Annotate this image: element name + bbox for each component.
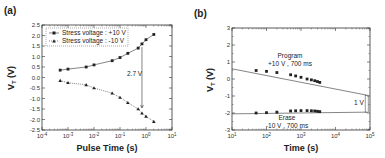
svg-text:10-2: 10-2 <box>89 132 100 140</box>
panel-label-a: (a) <box>4 5 16 16</box>
svg-text:101: 101 <box>227 132 237 140</box>
svg-text:102: 102 <box>262 132 272 140</box>
annotation-2-7v: 2.7 V <box>127 70 143 77</box>
annotation-program-conditions: +10 V , 700 ms <box>268 60 313 67</box>
svg-text:103: 103 <box>296 132 306 140</box>
svg-text:101: 101 <box>167 132 177 140</box>
svg-text:105: 105 <box>365 132 375 140</box>
y-axis-b: 3210-1-2-3 <box>225 25 370 133</box>
svg-text:104: 104 <box>331 132 341 140</box>
series-b <box>232 69 368 115</box>
figure: (a) 2.52.01.51.00.50.0-0.5-1.0-1.5-2.0-2… <box>0 0 385 158</box>
annotation-program: Program <box>278 52 303 60</box>
svg-text:1.5: 1.5 <box>32 43 41 49</box>
svg-text:3: 3 <box>227 25 231 31</box>
chart-a: (a) 2.52.01.51.00.50.0-0.5-1.0-1.5-2.0-2… <box>4 5 177 153</box>
y-axis-label-a: VT (V) <box>6 66 17 90</box>
svg-text:2: 2 <box>227 42 231 48</box>
svg-text:-2: -2 <box>225 110 231 116</box>
svg-text:1: 1 <box>227 59 231 65</box>
svg-text:10-1: 10-1 <box>115 132 126 140</box>
square-marker-icon <box>53 32 56 35</box>
annotation-erase: Erase <box>279 114 296 121</box>
svg-text:-1.0: -1.0 <box>30 96 41 102</box>
svg-text:0.0: 0.0 <box>32 75 41 81</box>
svg-text:10-3: 10-3 <box>63 132 74 140</box>
plot-frame-b <box>232 28 370 130</box>
x-axis-label-b: Time (s) <box>284 143 318 153</box>
svg-text:-0.5: -0.5 <box>30 85 41 91</box>
svg-text:1.0: 1.0 <box>32 54 41 60</box>
svg-text:-1.5: -1.5 <box>30 106 41 112</box>
svg-text:0: 0 <box>227 76 231 82</box>
legend-a: Stress voltage : +10 V Stress voltage : … <box>46 28 128 46</box>
svg-text:2.5: 2.5 <box>32 22 41 28</box>
svg-text:100: 100 <box>141 132 151 140</box>
y-axis-label-b: VT (V) <box>205 68 216 92</box>
svg-text:-2.0: -2.0 <box>30 117 41 123</box>
svg-text:10-4: 10-4 <box>37 132 48 140</box>
legend-item-plus10: Stress voltage : +10 V <box>62 29 126 37</box>
legend-item-minus10: Stress voltage : -10 V <box>62 37 125 45</box>
svg-text:-1: -1 <box>225 93 231 99</box>
x-axis-label-a: Pulse Time (s) <box>77 143 138 153</box>
annotation-erase-conditions: -10 V , 700 ms <box>266 122 309 129</box>
series-a <box>58 33 155 123</box>
svg-text:0.5: 0.5 <box>32 64 41 70</box>
panel-label-b: (b) <box>194 8 207 19</box>
svg-text:2.0: 2.0 <box>32 33 41 39</box>
chart-b: (b) 3210-1-2-3 101102103104105 VT (V) Ti… <box>194 8 375 153</box>
annotation-1v: 1 V <box>354 99 364 106</box>
